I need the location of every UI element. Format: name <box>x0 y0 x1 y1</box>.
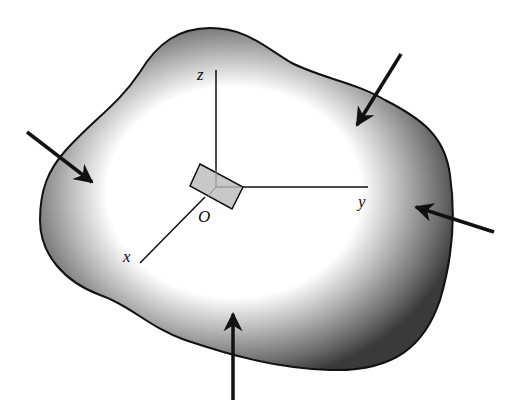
origin-label: O <box>198 207 210 226</box>
y-axis-label: y <box>356 192 366 211</box>
solid-body <box>40 28 453 370</box>
x-axis-label: x <box>122 247 131 266</box>
z-axis-label: z <box>196 65 204 84</box>
diagram-canvas: z y x O <box>0 0 523 415</box>
